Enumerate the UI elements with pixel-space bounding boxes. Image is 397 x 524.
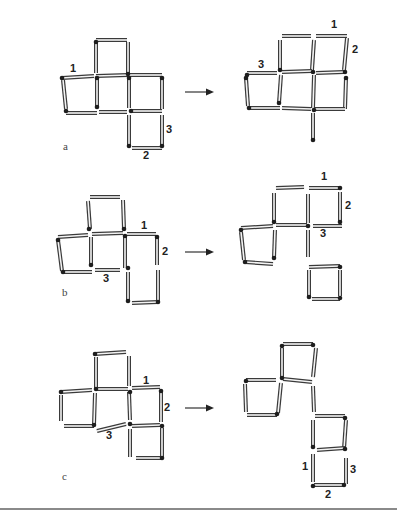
matchstick bbox=[92, 233, 123, 234]
match-head-icon bbox=[306, 224, 311, 229]
matchstick bbox=[282, 108, 311, 109]
match-head-icon bbox=[338, 296, 343, 301]
matchstick bbox=[132, 302, 158, 303]
match-number-label: 1 bbox=[141, 219, 147, 231]
panel-a: 132123a bbox=[60, 18, 358, 161]
figure-after: 123 bbox=[244, 343, 356, 500]
arrow-right-icon bbox=[185, 249, 214, 256]
figure-before: 132 bbox=[60, 40, 172, 161]
match-head-icon bbox=[126, 299, 131, 304]
match-head-icon bbox=[156, 300, 161, 305]
matchstick bbox=[96, 75, 128, 76]
match-head-icon bbox=[312, 108, 317, 113]
match-head-icon bbox=[89, 263, 94, 268]
match-head-icon bbox=[311, 484, 316, 489]
match-head-icon bbox=[343, 416, 348, 421]
match-number-label: 2 bbox=[325, 488, 331, 500]
matchstick bbox=[58, 240, 62, 271]
match-head-icon bbox=[87, 227, 92, 232]
matchstick bbox=[245, 384, 246, 412]
match-head-icon bbox=[126, 266, 131, 271]
matchstick bbox=[241, 226, 273, 228]
match-head-icon bbox=[94, 387, 99, 392]
match-head-icon bbox=[94, 40, 99, 45]
matchstick bbox=[344, 420, 346, 449]
panel-label: b bbox=[62, 286, 68, 298]
matchstick bbox=[63, 80, 66, 109]
matchstick bbox=[278, 383, 281, 413]
matchstick bbox=[313, 348, 316, 377]
matchstick bbox=[345, 78, 346, 109]
match-head-icon bbox=[275, 412, 280, 417]
match-number-label: 2 bbox=[143, 149, 149, 161]
match-head-icon bbox=[128, 390, 133, 395]
match-head-icon bbox=[272, 220, 277, 225]
matchstick bbox=[132, 425, 160, 426]
match-head-icon bbox=[343, 447, 348, 452]
matchstick bbox=[312, 40, 314, 70]
match-number-label: 2 bbox=[345, 199, 351, 211]
match-head-icon bbox=[159, 389, 164, 394]
match-head-icon bbox=[95, 105, 100, 110]
match-head-icon bbox=[160, 456, 165, 461]
figure-after: 123 bbox=[244, 18, 358, 142]
matchstick bbox=[283, 379, 312, 382]
matchstick bbox=[246, 78, 248, 106]
match-head-icon bbox=[311, 138, 316, 143]
matchstick bbox=[344, 38, 347, 70]
matchstick bbox=[309, 266, 340, 267]
matchstick bbox=[95, 352, 126, 354]
matchstick bbox=[129, 392, 130, 420]
match-head-icon bbox=[129, 109, 134, 114]
match-head-icon bbox=[244, 379, 249, 384]
match-number-label: 3 bbox=[320, 227, 326, 239]
match-head-icon bbox=[239, 228, 244, 233]
match-head-icon bbox=[61, 270, 66, 275]
match-head-icon bbox=[247, 106, 252, 111]
match-number-label: 3 bbox=[166, 123, 172, 135]
matchstick bbox=[61, 390, 92, 392]
matchstick bbox=[241, 232, 244, 260]
match-number-label: 2 bbox=[352, 43, 358, 55]
match-head-icon bbox=[277, 101, 282, 106]
match-head-icon bbox=[92, 423, 97, 428]
match-number-label: 3 bbox=[106, 429, 112, 441]
match-head-icon bbox=[64, 109, 69, 114]
match-head-icon bbox=[126, 72, 131, 77]
matchstick bbox=[88, 201, 90, 229]
match-head-icon bbox=[95, 76, 100, 81]
matchstick bbox=[94, 393, 95, 425]
figure-before: 123 bbox=[59, 352, 170, 461]
match-number-label: 1 bbox=[143, 374, 149, 386]
match-head-icon bbox=[338, 220, 343, 225]
match-head-icon bbox=[280, 376, 285, 381]
arrow-right-icon bbox=[185, 89, 214, 96]
matchstick bbox=[313, 386, 314, 412]
matchstick bbox=[317, 448, 345, 450]
match-head-icon bbox=[160, 144, 165, 149]
match-number-label: 1 bbox=[70, 62, 76, 74]
match-head-icon bbox=[311, 70, 316, 75]
figure-before: 123 bbox=[56, 197, 168, 304]
match-head-icon bbox=[278, 68, 283, 73]
match-head-icon bbox=[280, 344, 285, 349]
match-head-icon bbox=[244, 76, 249, 81]
match-head-icon bbox=[127, 144, 132, 149]
matchstick bbox=[313, 75, 314, 108]
match-head-icon bbox=[123, 234, 128, 239]
match-head-icon bbox=[272, 256, 277, 261]
match-head-icon bbox=[342, 483, 347, 488]
match-head-icon bbox=[56, 238, 61, 243]
matchstick bbox=[276, 187, 304, 188]
arrow-right-icon bbox=[185, 405, 214, 412]
match-head-icon bbox=[311, 343, 316, 348]
match-head-icon bbox=[307, 295, 312, 300]
match-number-label: 1 bbox=[302, 460, 308, 472]
match-head-icon bbox=[338, 265, 343, 270]
panel-label: c bbox=[62, 470, 67, 482]
matchstick bbox=[132, 387, 160, 388]
match-head-icon bbox=[93, 352, 98, 357]
match-head-icon bbox=[344, 76, 349, 81]
match-head-icon bbox=[127, 76, 132, 81]
matchstick bbox=[62, 76, 94, 78]
